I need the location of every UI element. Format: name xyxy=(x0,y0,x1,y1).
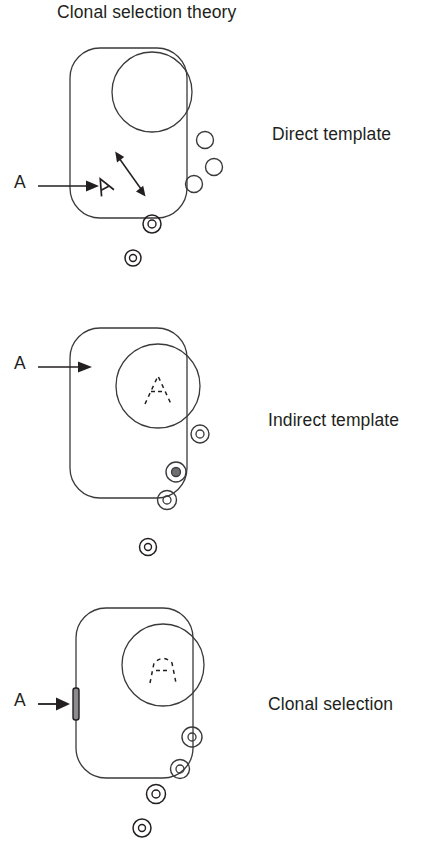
antibody-double-circle xyxy=(171,760,190,779)
membrane-receptor-icon xyxy=(73,688,79,720)
panel-label-direct-template: Direct template xyxy=(272,124,391,145)
nucleus xyxy=(122,624,204,706)
panel-indirect-template: A Indirect template xyxy=(0,290,447,575)
clonal-selection-theory-figure: Clonal selection theory xyxy=(0,0,447,844)
antibody-circle xyxy=(186,176,203,193)
antibody-double-circle xyxy=(158,491,177,510)
cell-membrane xyxy=(70,328,187,498)
panel-direct-template-drawing xyxy=(0,0,447,290)
cell-membrane xyxy=(76,608,193,778)
cell-membrane xyxy=(70,48,187,218)
antibody-double-circle xyxy=(166,462,186,482)
antibody-double-circle xyxy=(191,425,209,443)
antigen-label-indirect: A xyxy=(14,353,26,374)
antibody-double-circle xyxy=(133,819,151,837)
dashed-antigen-template-glyph xyxy=(150,659,176,684)
reversible-template-double-arrow-icon xyxy=(115,152,145,197)
antibody-double-circle xyxy=(182,727,202,747)
antigen-label-direct: A xyxy=(14,172,26,193)
dashed-antigen-template-glyph xyxy=(145,376,171,404)
antigen-entry-arrow-icon xyxy=(38,362,92,373)
antibody-double-circle xyxy=(147,785,166,804)
antibody-circle xyxy=(197,132,214,149)
panel-clonal-selection: A Clonal selection xyxy=(0,575,447,844)
panel-label-indirect-template: Indirect template xyxy=(268,410,399,431)
antigen-entry-arrow-icon xyxy=(38,181,99,192)
antigen-label-clonal: A xyxy=(14,690,26,711)
antigen-binding-arrow-icon xyxy=(38,698,70,711)
panel-direct-template: A Direct template xyxy=(0,0,447,290)
nucleus xyxy=(112,52,192,132)
antibody-double-circle xyxy=(140,539,157,556)
panel-label-clonal-selection: Clonal selection xyxy=(268,694,393,715)
antibody-circle xyxy=(206,159,223,176)
panel-indirect-template-drawing xyxy=(0,290,447,575)
antibody-double-circle xyxy=(125,250,141,266)
